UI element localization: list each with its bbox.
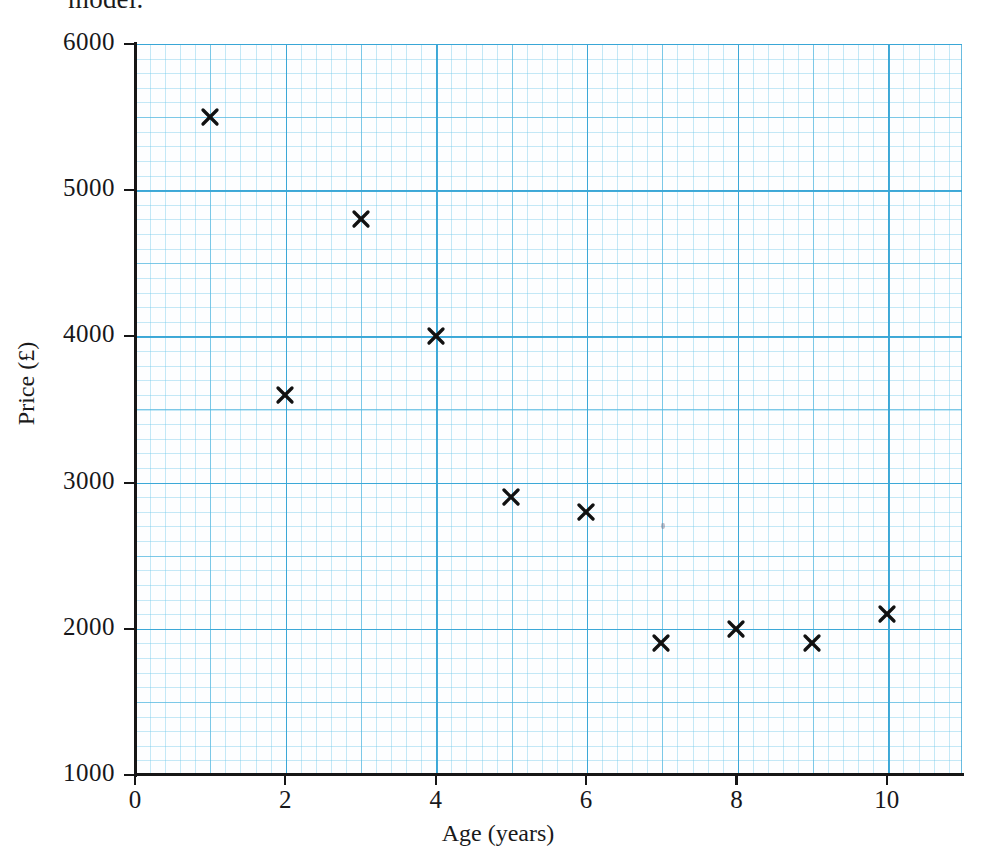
data-point: [423, 323, 449, 349]
x-tick: [886, 774, 888, 785]
x-tick-label: 4: [406, 786, 466, 814]
y-tick-label: 5000: [29, 174, 115, 202]
x-tick: [435, 774, 437, 785]
scan-artifact: [661, 523, 665, 529]
data-point: [573, 499, 599, 525]
y-tick-label: 2000: [29, 613, 115, 641]
scatter-plot-page: model. 100020003000400050006000 0246810 …: [0, 0, 996, 864]
grid-major-lines: [135, 44, 962, 775]
x-tick-label: 8: [706, 786, 766, 814]
y-tick: [124, 628, 135, 630]
data-point: [799, 630, 825, 656]
y-axis-title: Price (£): [13, 314, 40, 454]
y-tick: [124, 43, 135, 45]
data-point: [648, 630, 674, 656]
x-tick: [735, 774, 737, 785]
grid-medium-lines: [135, 44, 962, 775]
plot-area: [135, 44, 962, 775]
y-axis-line: [134, 42, 137, 777]
y-tick: [124, 482, 135, 484]
x-tick-label: 0: [105, 786, 165, 814]
data-point: [498, 484, 524, 510]
data-point: [874, 601, 900, 627]
x-tick-label: 10: [857, 786, 917, 814]
grid-minor-lines: [135, 44, 962, 775]
grid-border: [135, 44, 962, 775]
x-axis-line: [134, 773, 964, 776]
data-point: [723, 616, 749, 642]
y-tick-label: 4000: [29, 320, 115, 348]
x-tick: [284, 774, 286, 785]
cutoff-body-text: model.: [68, 0, 143, 15]
x-tick-label: 2: [255, 786, 315, 814]
x-tick-label: 6: [556, 786, 616, 814]
y-tick-label: 3000: [29, 467, 115, 495]
y-tick-label: 6000: [29, 28, 115, 56]
y-tick: [124, 335, 135, 337]
y-tick: [124, 189, 135, 191]
x-axis-title: Age (years): [0, 820, 996, 847]
data-point: [197, 104, 223, 130]
data-point: [272, 382, 298, 408]
x-tick: [134, 774, 136, 785]
x-tick: [585, 774, 587, 785]
y-tick-label: 1000: [29, 759, 115, 787]
data-point: [348, 206, 374, 232]
